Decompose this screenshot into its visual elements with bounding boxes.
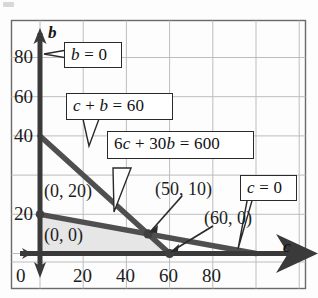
- x-tick-0: 0: [16, 266, 26, 285]
- y-tick-80: 80: [14, 47, 33, 66]
- vertex-label-0-20: (0, 20): [44, 182, 92, 200]
- callout-c-equals-0-text: c = 0: [247, 178, 282, 197]
- callout-6c-plus-30b-600-text: 6c + 30b = 600: [114, 134, 220, 153]
- vertex-label-60-0: (60, 0): [204, 209, 252, 227]
- callout-c-plus-b-60: c + b = 60: [66, 93, 173, 120]
- y-axis-name: b: [48, 24, 57, 41]
- callout-6c-plus-30b-600: 6c + 30b = 600: [107, 131, 254, 159]
- vertex-label-0-0: (0, 0): [44, 226, 83, 244]
- y-tick-40: 40: [14, 126, 33, 145]
- vertex-label-50-10: (50, 10): [155, 180, 212, 198]
- x-tick-40: 40: [116, 266, 135, 285]
- x-tick-80: 80: [202, 266, 221, 285]
- figure-root: 80 60 40 20 0 20 40 60 80 b c (0, 20) (0…: [0, 0, 318, 298]
- x-tick-20: 20: [73, 266, 92, 285]
- callout-c-plus-b-60-text: c + b = 60: [73, 96, 144, 115]
- vertex-dot-0-20: [36, 210, 45, 219]
- y-tick-60: 60: [14, 87, 33, 106]
- callout-b-equals-0-text: b = 0: [71, 45, 107, 64]
- callout-b-equals-0: b = 0: [64, 42, 122, 68]
- x-axis-name: c: [283, 238, 291, 255]
- x-tick-60: 60: [159, 266, 178, 285]
- y-tick-20: 20: [14, 204, 33, 223]
- callout-c-equals-0: c = 0: [240, 175, 297, 201]
